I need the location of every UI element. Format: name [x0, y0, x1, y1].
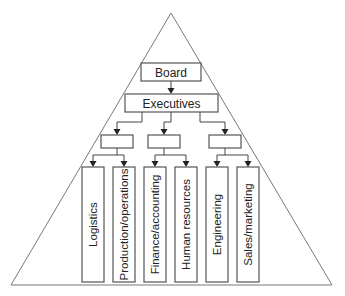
manager-box-3 — [209, 135, 241, 148]
department-human-resources: Human resources — [175, 167, 197, 282]
pyramid-outline — [11, 13, 332, 285]
department-label: Finance/accounting — [149, 175, 161, 275]
department-sales-marketing: Sales/marketing — [237, 167, 259, 282]
executives-node: Executives — [125, 94, 218, 112]
department-label: Logistics — [87, 202, 99, 247]
department-label: Engineering — [211, 194, 223, 255]
department-engineering: Engineering — [206, 167, 228, 282]
executives-to-managers-connectors — [114, 112, 229, 135]
managers-to-departments-connectors — [90, 148, 252, 167]
executives-label: Executives — [142, 97, 200, 111]
manager-box-2 — [148, 135, 180, 148]
manager-box-1 — [101, 135, 133, 148]
department-production-operations: Production/operations — [113, 167, 135, 282]
department-label: Sales/marketing — [242, 183, 254, 265]
department-label: Production/operations — [118, 168, 130, 280]
department-logistics: Logistics — [82, 167, 104, 282]
department-finance-accounting: Finance/accounting — [144, 167, 166, 282]
board-to-executives-arrow — [168, 81, 175, 94]
department-label: Human resources — [180, 179, 192, 270]
board-node: Board — [141, 63, 201, 81]
board-label: Board — [155, 66, 187, 80]
org-pyramid-diagram: Board Executives — [0, 0, 345, 296]
